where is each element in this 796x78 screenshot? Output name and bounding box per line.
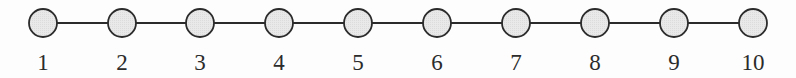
graph-node — [108, 9, 136, 37]
graph-node-label: 5 — [352, 50, 364, 75]
graph-canvas: 12345678910 — [0, 0, 796, 78]
path-graph-figure: 12345678910 — [0, 0, 796, 78]
graph-node-label: 1 — [37, 50, 49, 75]
graph-node — [29, 9, 57, 37]
graph-node-label: 7 — [510, 50, 522, 75]
node-label-layer: 12345678910 — [37, 50, 764, 75]
graph-node — [265, 9, 293, 37]
graph-node — [502, 9, 530, 37]
graph-node-label: 6 — [431, 50, 443, 75]
graph-node-label: 3 — [194, 50, 206, 75]
graph-node-label: 4 — [273, 50, 285, 75]
graph-node — [581, 9, 609, 37]
graph-node-label: 10 — [742, 50, 765, 75]
graph-node — [739, 9, 767, 37]
graph-node — [344, 9, 372, 37]
graph-node-label: 9 — [668, 50, 680, 75]
graph-node-label: 8 — [589, 50, 601, 75]
graph-node — [423, 9, 451, 37]
graph-node — [186, 9, 214, 37]
graph-node — [660, 9, 688, 37]
graph-node-label: 2 — [116, 50, 128, 75]
